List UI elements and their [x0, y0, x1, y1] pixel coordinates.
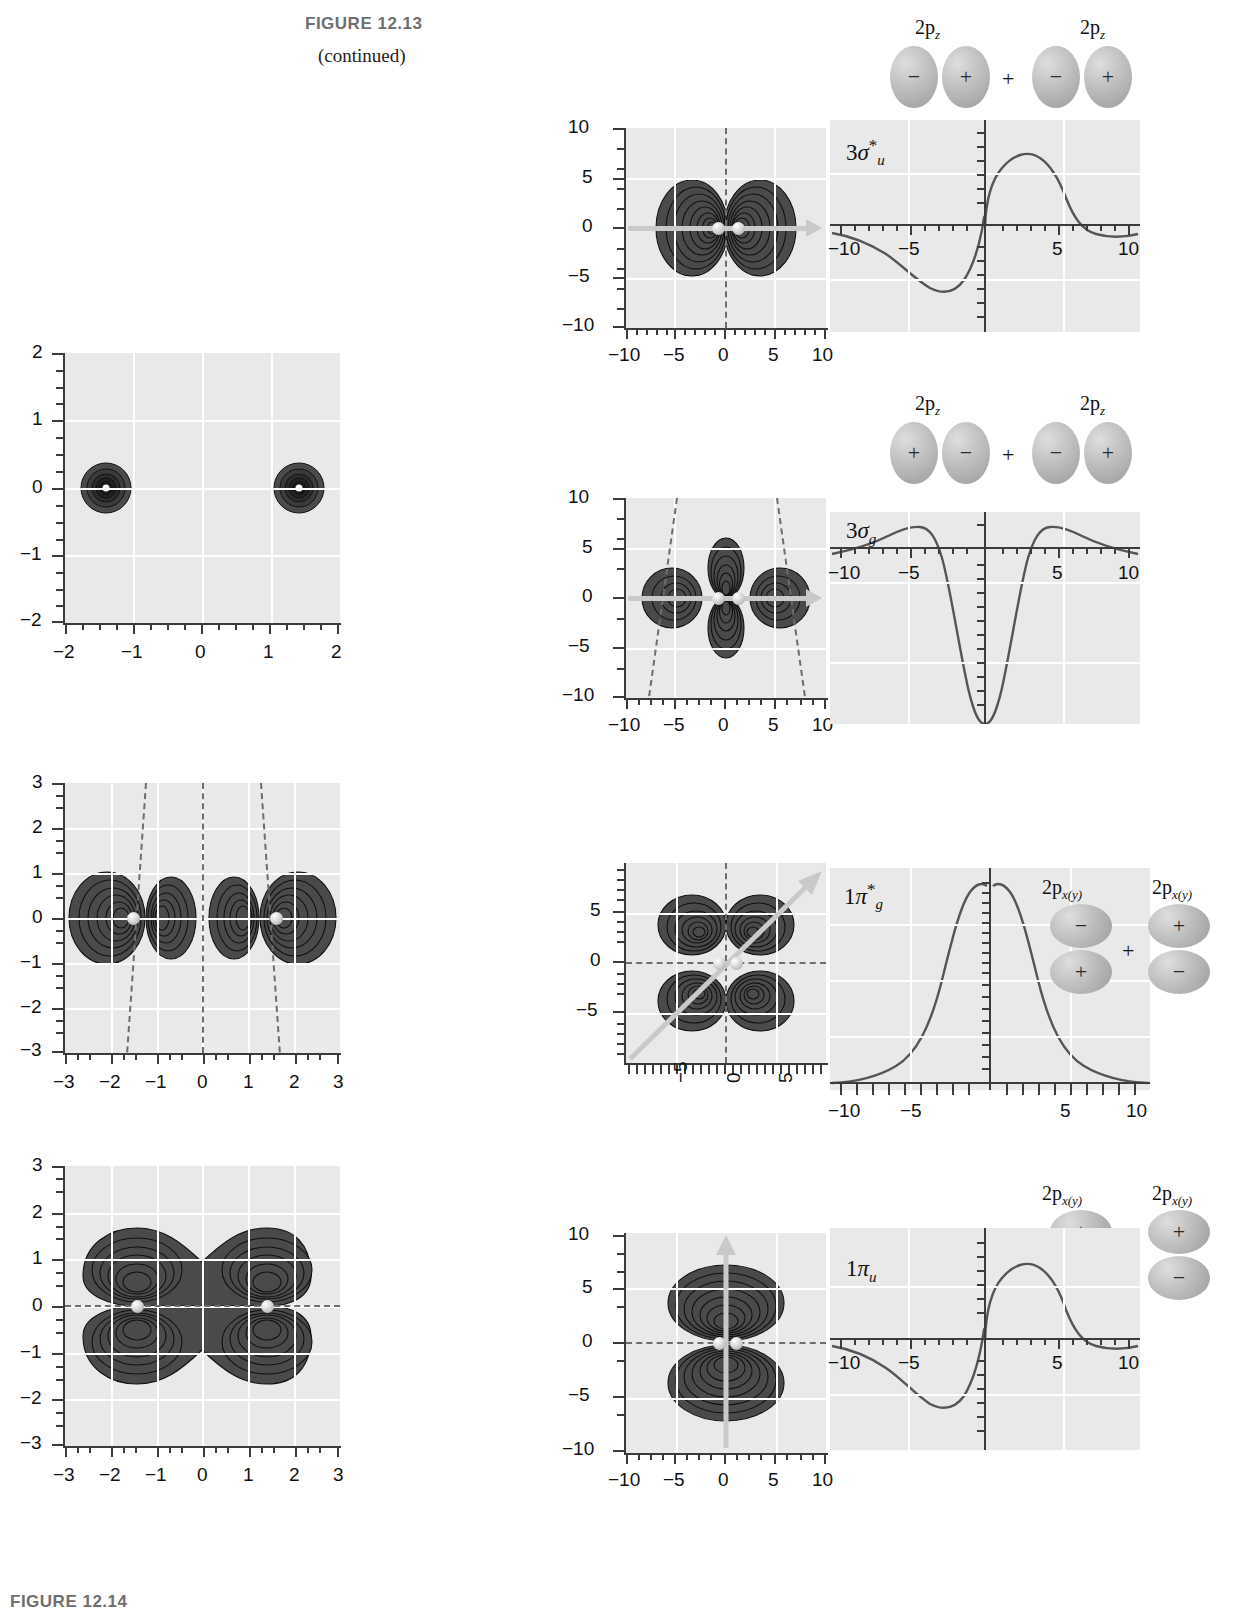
figure-caption-bottom: FIGURE 12.14: [10, 1592, 128, 1612]
wavefunction-plot-3sigma-u-star: 3σ*u −10 −5 5 10: [830, 120, 1150, 350]
contour-canvas: [65, 353, 340, 623]
x-tick-label: 0: [718, 714, 729, 736]
x-tick-label: 5: [768, 714, 779, 736]
x-tick-label: −3: [53, 1071, 75, 1093]
x-tick-label: 5: [1052, 562, 1063, 584]
ao-lobe-right-2: +: [1084, 46, 1132, 108]
ao-schematic-3sigma-g: 2pz 2pz + − + − +: [880, 392, 1210, 492]
ao-lobe-right-bottom: −: [1148, 1256, 1210, 1300]
nucleus-right: [270, 912, 283, 925]
nucleus-right: [730, 957, 743, 970]
contour-canvas: [65, 1166, 340, 1446]
nucleus-right: [732, 592, 745, 605]
nucleus-left: [713, 957, 726, 970]
ao-lobe-right-top: +: [1148, 1210, 1210, 1254]
x-tick-label: 2: [289, 1464, 300, 1486]
y-axis: [63, 353, 65, 623]
ao-lobe-left-2: +: [942, 46, 990, 108]
y-tick-label: −10: [562, 1438, 594, 1460]
y-tick-label: 0: [582, 585, 593, 607]
contour-plot-3sigma-u-star: 10 5 0 −5 −10 −10 −5 0 5 10: [560, 120, 850, 385]
x-tick-label: −10: [828, 1100, 860, 1122]
x-tick-label: 5: [768, 344, 779, 366]
y-tick-label: 0: [32, 906, 43, 928]
y-axis: [63, 783, 65, 1053]
wave-y-axis: [984, 120, 986, 332]
x-tick-label: −5: [900, 1100, 922, 1122]
y-tick-label: 10: [568, 116, 589, 138]
x-tick-label: 0: [197, 1464, 208, 1486]
ao-schematic-3sigma-u-star: 2pz 2pz − + + − +: [880, 16, 1210, 116]
y-tick-label: 2: [32, 1201, 43, 1223]
ao-label-left: 2px(y): [1042, 1182, 1082, 1209]
y-tick-label: −1: [20, 951, 42, 973]
ao-joiner: +: [1002, 442, 1014, 468]
x-tick-label: 10: [812, 1469, 833, 1491]
wave-x-axis: [830, 224, 1140, 226]
x-tick-label: −5: [663, 1469, 685, 1491]
y-tick-label: 10: [568, 1223, 589, 1245]
y-tick-label: 0: [582, 215, 593, 237]
y-tick-label: −5: [568, 635, 590, 657]
y-tick-label: 0: [590, 949, 601, 971]
y-tick-label: −3: [20, 1039, 42, 1061]
ao-label-right: 2px(y): [1152, 1182, 1192, 1209]
y-tick-label: −10: [562, 684, 594, 706]
y-tick-label: 1: [32, 1247, 43, 1269]
x-tick-label: −5: [898, 1352, 920, 1374]
x-tick-label: 2: [331, 641, 342, 663]
nucleus-right: [730, 1337, 743, 1350]
x-tick-label: −10: [828, 1352, 860, 1374]
y-tick-label: 2: [32, 816, 43, 838]
y-tick-label: −1: [20, 543, 42, 565]
x-tick-label: −5: [663, 714, 685, 736]
x-tick-label: 3: [333, 1071, 344, 1093]
x-tick-label: −1: [145, 1464, 167, 1486]
ao-lobe-right-2: +: [1084, 422, 1132, 484]
y-tick-label: −1: [20, 1341, 42, 1363]
y-tick-label: −5: [576, 999, 598, 1021]
contour-canvas: [626, 498, 826, 698]
mo-label-1pi-u: 1πu: [846, 1256, 877, 1286]
ao-lobe-right-top: +: [1148, 904, 1210, 948]
x-tick-label: −2: [99, 1071, 121, 1093]
x-axis: [624, 328, 828, 330]
x-tick-label: −10: [828, 238, 860, 260]
y-tick-label: −5: [568, 1384, 590, 1406]
y-tick-label: 5: [590, 899, 601, 921]
y-tick-label: −3: [20, 1432, 42, 1454]
y-tick-label: 0: [582, 1330, 593, 1352]
y-tick-label: −5: [568, 265, 590, 287]
wavefunction-plot-3sigma-g: 3σg −10 −5 5 10: [830, 512, 1150, 742]
x-tick-label: 0: [718, 344, 729, 366]
ao-label-left: 2pz: [915, 392, 940, 419]
nucleus-right: [261, 1300, 274, 1313]
ao-label-left: 2px(y): [1042, 876, 1082, 903]
contour-canvas: [65, 783, 340, 1053]
x-tick-label: 1: [263, 641, 274, 663]
ao-lobe-left-2: −: [942, 422, 990, 484]
nucleus-left: [131, 1300, 144, 1313]
y-axis: [624, 863, 626, 1063]
wave-canvas: 1πu: [830, 1228, 1140, 1450]
ao-label-right: 2px(y): [1152, 876, 1192, 903]
x-tick-label: 10: [1126, 1100, 1147, 1122]
x-tick-label: 2: [289, 1071, 300, 1093]
y-tick-label: −2: [20, 1387, 42, 1409]
x-axis: [63, 1446, 341, 1448]
wave-canvas: 3σg: [830, 512, 1140, 724]
molecular-axis-arrow: [626, 1233, 826, 1453]
y-axis: [624, 128, 626, 328]
figure-subcaption-continued: (continued): [318, 45, 406, 67]
ao-joiner: +: [1002, 66, 1014, 92]
y-tick-label: 5: [582, 166, 593, 188]
mo-label-3sigma-g: 3σg: [846, 518, 876, 548]
nucleus-left: [712, 222, 725, 235]
mo-label-3sigma-u-star: 3σ*u: [846, 136, 885, 169]
ao-lobe-left-top: −: [1050, 904, 1112, 948]
figure-caption-top: FIGURE 12.13: [305, 14, 423, 34]
nucleus-right: [732, 222, 745, 235]
ao-schematic-1pi-g-star: 2px(y) 2px(y) − + + + −: [1040, 876, 1255, 1006]
contour-plot-left-3: 3 2 1 0 −1 −2 −3 −3 −2 −1 0 1 2 3: [20, 1158, 360, 1518]
y-tick-label: 3: [32, 1154, 43, 1176]
